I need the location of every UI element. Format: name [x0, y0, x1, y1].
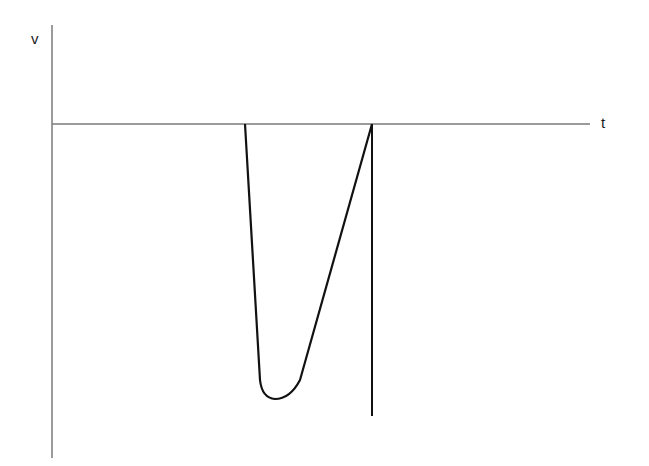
v-axis-label: v: [31, 30, 39, 47]
t-axis-label: t: [601, 114, 605, 131]
velocity-curve: [245, 124, 372, 399]
velocity-time-diagram: [0, 0, 649, 466]
